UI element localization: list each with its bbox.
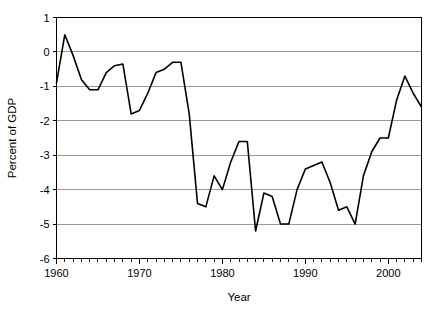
y-tick-label-0: 0 <box>43 46 49 58</box>
x-axis-title: Year <box>227 291 250 303</box>
y-tick-label--5: -5 <box>40 218 50 230</box>
line-chart: 10-1-2-3-4-5-6 19601970198019902000 Year… <box>0 0 433 310</box>
y-tick-label--2: -2 <box>40 115 50 127</box>
x-tick-label-1980: 1980 <box>210 267 234 279</box>
x-tick-label-1960: 1960 <box>44 267 68 279</box>
x-tick-label-1990: 1990 <box>293 267 317 279</box>
chart-container: 10-1-2-3-4-5-6 19601970198019902000 Year… <box>0 0 433 310</box>
y-tick-label--1: -1 <box>40 80 50 92</box>
y-tick-label--6: -6 <box>40 253 50 265</box>
y-tick-label--3: -3 <box>40 149 50 161</box>
y-axis-title: Percent of GDP <box>6 97 18 178</box>
x-tick-label-2000: 2000 <box>376 267 400 279</box>
x-tick-label-1970: 1970 <box>127 267 151 279</box>
y-tick-label-1: 1 <box>43 12 49 24</box>
y-tick-label--4: -4 <box>40 184 50 196</box>
